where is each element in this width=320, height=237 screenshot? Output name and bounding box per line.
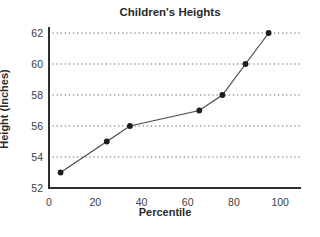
chart-title: Children's Heights (119, 6, 220, 18)
data-point (266, 30, 272, 36)
x-tick-label: 0 (46, 196, 52, 208)
y-tick-label: 58 (31, 89, 43, 101)
y-tick-label: 56 (31, 120, 43, 132)
x-tick-label: 60 (182, 196, 194, 208)
data-point (196, 108, 202, 114)
data-point (243, 61, 249, 67)
y-axis-label: Height (Inches) (0, 69, 10, 149)
chart-container: Children's Heights Percentile Height (In… (0, 0, 320, 237)
y-tick-label: 60 (31, 58, 43, 70)
x-tick-label: 100 (271, 196, 289, 208)
series-line (61, 33, 269, 173)
data-point (58, 170, 64, 176)
x-tick-label: 80 (228, 196, 240, 208)
x-tick-label: 40 (136, 196, 148, 208)
y-tick-label: 62 (31, 27, 43, 39)
y-tick-label: 52 (31, 182, 43, 194)
data-point (104, 139, 110, 145)
data-point (219, 92, 225, 98)
data-point (127, 123, 133, 129)
plot-area: Children's Heights Percentile Height (In… (0, 0, 320, 237)
x-tick-label: 20 (89, 196, 101, 208)
y-tick-label: 54 (31, 151, 43, 163)
